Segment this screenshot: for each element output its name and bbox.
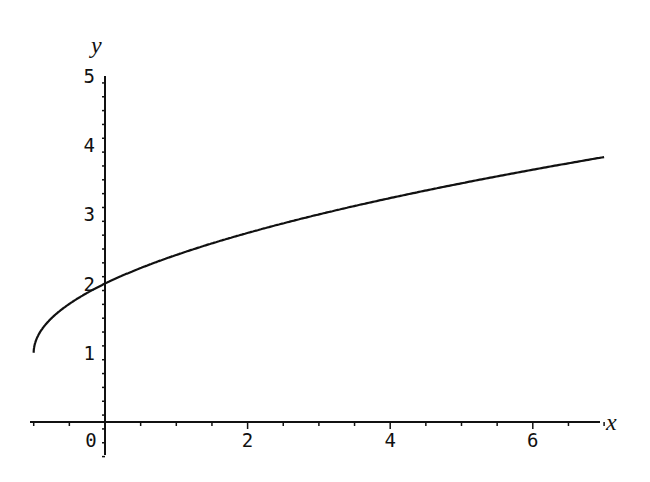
- y-tick-label: 5: [84, 65, 95, 87]
- x-axis-label: x: [605, 409, 617, 435]
- y-tick-label: 4: [84, 134, 95, 156]
- x-tick-label: 4: [384, 429, 395, 451]
- axes: 024612345: [30, 65, 604, 457]
- plot-area: 024612345 x y: [0, 0, 650, 482]
- y-tick-label: 1: [84, 342, 95, 364]
- y-axis-label: y: [89, 32, 102, 58]
- x-tick-label: 0: [85, 429, 96, 451]
- y-tick-label: 3: [84, 203, 95, 225]
- x-tick-label: 6: [527, 429, 538, 451]
- curve-line: [34, 157, 604, 353]
- x-tick-label: 2: [242, 429, 253, 451]
